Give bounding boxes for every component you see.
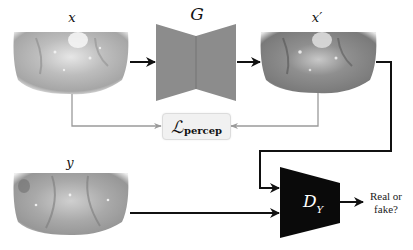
discriminator-subscript: Y [317, 204, 324, 215]
loss-subscript: percep [184, 125, 222, 136]
label-discriminator: DY [290, 191, 336, 213]
input-image-x [14, 32, 129, 94]
edge-x-to-loss [72, 94, 161, 126]
generator-block [156, 24, 236, 101]
output-image-x-prime [261, 32, 377, 93]
label-y: y [60, 155, 80, 170]
label-x: x [62, 10, 82, 25]
discriminator-symbol: D [303, 191, 317, 211]
perceptual-loss-box: ℒpercep [162, 113, 231, 140]
target-image-y [14, 173, 129, 235]
output-question: Real or fake? [364, 190, 408, 216]
loss-symbol: ℒ [171, 117, 183, 137]
label-x-prime: x′ [305, 10, 329, 25]
label-generator: G [185, 4, 209, 24]
output-line-1: Real or [364, 190, 408, 203]
edge-x-prime-to-loss [231, 93, 318, 126]
output-line-2: fake? [364, 203, 408, 216]
